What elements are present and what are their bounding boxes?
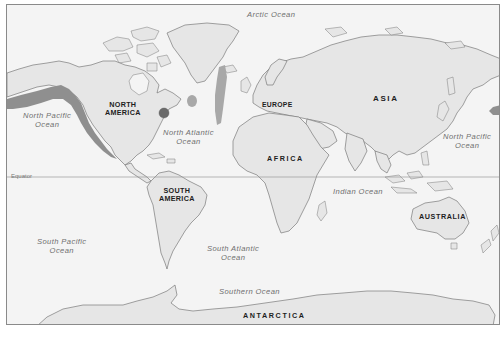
indian-ocean-label: Indian Ocean [333, 188, 383, 197]
asia-label: ASIA [373, 94, 399, 103]
madagascar [317, 201, 327, 221]
mid-atlantic-spot [187, 95, 197, 107]
arctic-island [147, 63, 157, 71]
indonesia [385, 175, 405, 183]
north-atlantic-line2: Ocean [163, 138, 214, 147]
indonesia [391, 187, 417, 193]
arctic-island [157, 55, 171, 67]
arctic-island [115, 53, 131, 63]
new-guinea [427, 181, 453, 191]
south-pacific-ocean-label: South Pacific Ocean [37, 238, 87, 255]
antarctica-label: ANTARCTICA [243, 312, 306, 320]
mid-atlantic-ridge-highlight [215, 65, 227, 125]
southern-ocean-label: Southern Ocean [219, 288, 280, 297]
world-map: Arctic Ocean NORTH AMERICA North Pacific… [6, 4, 500, 325]
south-america-label-line2: AMERICA [159, 195, 195, 203]
east-coast-highlight [159, 108, 169, 118]
north-pacific-ocean-east-label: North Pacific Ocean [443, 133, 491, 150]
north-america-label: NORTH AMERICA [105, 101, 141, 118]
arctic-ocean-label: Arctic Ocean [247, 11, 295, 20]
indonesia [407, 171, 423, 179]
western-pacific-highlight [489, 105, 500, 115]
tasmania [451, 243, 457, 249]
south-atlantic-ocean-label: South Atlantic Ocean [207, 245, 259, 262]
north-atlantic-ocean-label: North Atlantic Ocean [163, 129, 214, 146]
north-pacific-east-line2: Ocean [443, 142, 491, 151]
greenland [167, 23, 239, 83]
british-isles [241, 77, 251, 93]
caribbean-island [147, 153, 165, 159]
new-zealand [491, 225, 499, 241]
south-atlantic-line2: Ocean [207, 254, 259, 263]
map-canvas [7, 5, 500, 325]
north-america-label-line2: AMERICA [105, 109, 141, 117]
new-zealand [481, 239, 491, 253]
north-pacific-west-line2: Ocean [23, 121, 71, 130]
europe-label: EUROPE [262, 101, 293, 109]
north-pacific-ocean-west-label: North Pacific Ocean [23, 112, 71, 129]
arctic-island [103, 37, 133, 51]
south-pacific-line2: Ocean [37, 247, 87, 256]
caribbean-island [167, 159, 175, 163]
arctic-island [137, 43, 159, 57]
philippines [421, 151, 429, 165]
africa-label: AFRICA [267, 155, 304, 163]
equator-label: Equator [11, 173, 32, 180]
australia-label: AUSTRALIA [419, 213, 466, 221]
arctic-island [131, 27, 159, 41]
central-america [125, 163, 151, 183]
south-america-label: SOUTH AMERICA [159, 187, 195, 204]
siberian-islands [385, 27, 403, 35]
novaya-zemlya [325, 27, 347, 37]
